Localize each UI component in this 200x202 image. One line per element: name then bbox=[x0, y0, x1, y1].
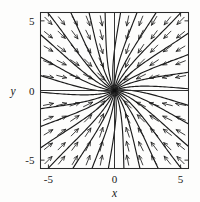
equilibrium-point-marker bbox=[112, 88, 116, 92]
y-tick-label-5: 5 bbox=[29, 15, 35, 27]
y-tick-label-neg5: -5 bbox=[25, 154, 35, 166]
x-tick-label-0: 0 bbox=[112, 173, 118, 185]
y-tick-label-0: 0 bbox=[29, 85, 35, 97]
x-tick-label-5: 5 bbox=[178, 173, 184, 185]
x-tick-label-neg5: -5 bbox=[44, 173, 54, 185]
phase-portrait-svg: -5 0 5 -5 0 5 x y bbox=[0, 0, 200, 202]
x-axis-title: x bbox=[111, 187, 118, 199]
y-axis-title: y bbox=[9, 85, 16, 98]
phase-portrait-figure: -5 0 5 -5 0 5 x y bbox=[0, 0, 200, 202]
